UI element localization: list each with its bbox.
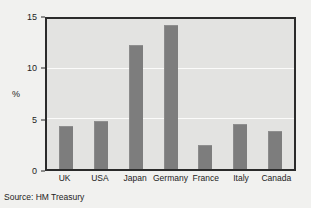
y-axis-title: % <box>12 90 20 99</box>
y-tick-label-0: 0 <box>32 167 37 176</box>
bar-slot-canada <box>257 19 292 169</box>
bar-slot-uk <box>49 19 84 169</box>
chart-figure: % 051015 UKUSAJapanGermanyFranceItalyCan… <box>0 0 311 208</box>
bar-italy[interactable] <box>233 124 247 169</box>
bar-slot-italy <box>223 19 258 169</box>
bar-usa[interactable] <box>94 121 108 169</box>
x-tick-label-uk: UK <box>47 173 82 183</box>
x-tick-label-germany: Germany <box>153 173 188 183</box>
x-tick-label-japan: Japan <box>118 173 153 183</box>
source-note: Source: HM Treasury <box>4 192 84 202</box>
y-tick-label-10: 10 <box>27 64 37 73</box>
y-tick-label-15: 15 <box>27 13 37 22</box>
x-tick-label-usa: USA <box>82 173 117 183</box>
bar-germany[interactable] <box>164 25 178 169</box>
plot-area <box>45 17 296 171</box>
x-tick-label-italy: Italy <box>223 173 258 183</box>
x-tick-label-canada: Canada <box>259 173 294 183</box>
bar-canada[interactable] <box>268 131 282 169</box>
x-axis: UKUSAJapanGermanyFranceItalyCanada <box>45 173 296 189</box>
plot-inner <box>47 19 294 169</box>
bar-uk[interactable] <box>59 126 73 169</box>
bar-slot-usa <box>84 19 119 169</box>
bar-series <box>47 19 294 169</box>
bar-japan[interactable] <box>129 45 143 169</box>
x-tick-label-france: France <box>188 173 223 183</box>
bar-france[interactable] <box>198 145 212 169</box>
bar-slot-france <box>188 19 223 169</box>
y-axis: % 051015 <box>0 17 45 171</box>
bar-slot-japan <box>118 19 153 169</box>
y-tick-label-5: 5 <box>32 115 37 124</box>
bar-slot-germany <box>153 19 188 169</box>
